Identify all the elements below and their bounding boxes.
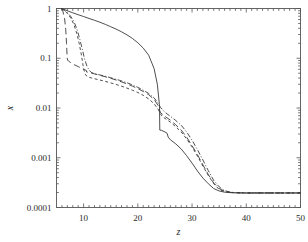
y-axis-title: x [4,105,15,111]
ionization-fraction-plot: 102030405010.10.010.0010.0001zx [0,0,308,242]
curve-short-dash [61,9,300,193]
x-tick-label: 40 [242,213,252,223]
x-axis-title: z [176,226,181,237]
x-tick-label: 30 [188,213,198,223]
x-tick-label: 20 [133,213,143,223]
curve-solid [61,9,300,193]
x-tick-label: 50 [296,213,306,223]
x-tick-label: 10 [79,213,89,223]
curve-dash-dot [61,9,300,193]
y-tick-label: 0.001 [31,153,51,163]
curve-long-dash [61,9,300,193]
y-tick-label: 0.0001 [27,203,52,213]
figure-container: 102030405010.10.010.0010.0001zx [0,0,308,242]
y-tick-label: 0.01 [36,103,52,113]
y-tick-label: 0.1 [40,53,51,63]
y-tick-label: 1 [47,4,52,14]
plot-frame [57,9,301,208]
